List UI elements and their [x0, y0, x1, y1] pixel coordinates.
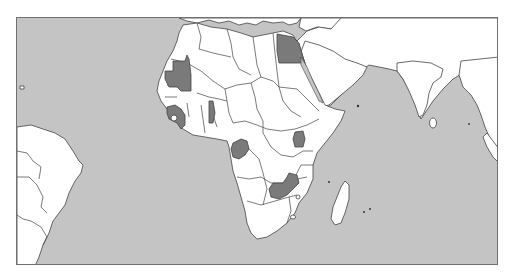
country-uganda[interactable]: [293, 131, 305, 147]
sierra-leone-hole: [171, 115, 177, 121]
africa-map: [17, 18, 498, 265]
map-frame: [16, 17, 498, 265]
seychelles-dot: [328, 181, 330, 183]
swaziland: [296, 195, 300, 199]
socotra-dot: [357, 105, 359, 107]
mauritius-dot: [363, 211, 365, 213]
sri-lanka: [430, 118, 437, 128]
lesotho: [291, 215, 296, 219]
cape-verde-island: [20, 86, 24, 89]
reunion-dot: [369, 208, 371, 210]
andaman-dot: [468, 123, 470, 125]
